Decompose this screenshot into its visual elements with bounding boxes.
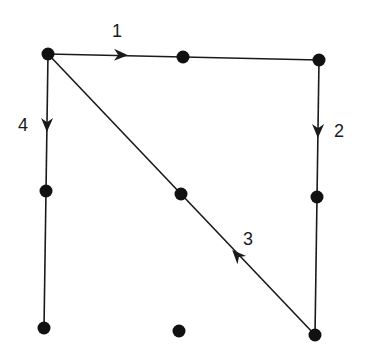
dot-r2c2 (175, 188, 188, 201)
grid-dots (38, 48, 326, 342)
arrow-icon-3 (232, 250, 246, 264)
segment-label-1: 1 (112, 22, 122, 40)
dot-r1c3 (313, 54, 326, 67)
dot-r1c2 (177, 51, 190, 64)
segment-label-2: 2 (334, 122, 344, 140)
dot-r3c2 (173, 325, 186, 338)
segment-label-3: 3 (243, 230, 253, 248)
dot-r2c1 (40, 185, 53, 198)
dot-r3c3 (309, 329, 322, 342)
arrowheads (41, 49, 324, 264)
dot-r2c3 (311, 191, 324, 204)
dot-r1c1 (42, 48, 55, 61)
nine-dots-diagram (0, 0, 370, 354)
segment-label-4: 4 (18, 116, 28, 134)
dot-r3c1 (38, 322, 51, 335)
